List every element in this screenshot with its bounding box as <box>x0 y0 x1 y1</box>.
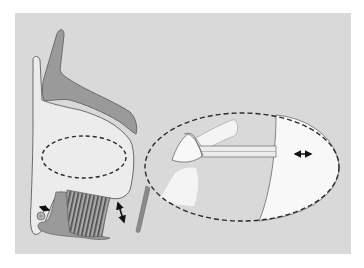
round-structure-inner <box>39 214 43 218</box>
diagram-canvas <box>0 0 364 268</box>
magnified-inset <box>145 113 339 221</box>
striated-tissue <box>67 190 110 237</box>
